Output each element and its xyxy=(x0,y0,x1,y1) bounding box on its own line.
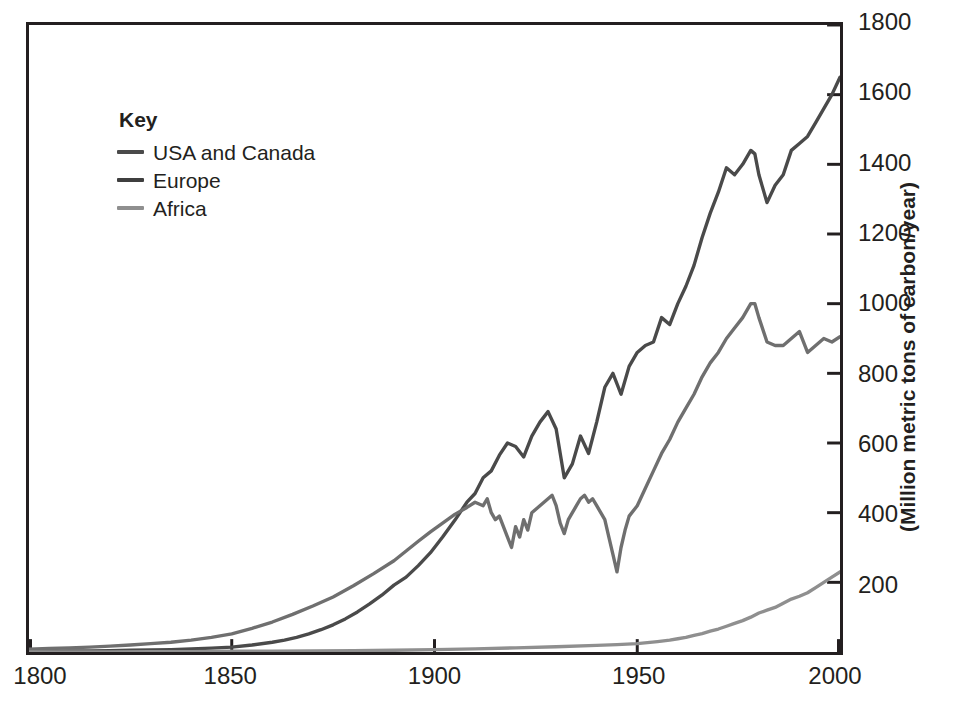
legend-swatch-usa-and-canada xyxy=(117,150,144,154)
x-tick-label: 2000 xyxy=(808,662,861,690)
legend-item-europe: Europe xyxy=(117,166,377,194)
y-axis-title: (Million metric tons of carbon/year) xyxy=(896,182,920,532)
legend-swatch-africa xyxy=(117,206,144,210)
y-tick-label: 1400 xyxy=(858,149,911,177)
y-tick-label: 400 xyxy=(858,500,898,528)
legend-label-europe: Europe xyxy=(153,170,221,191)
y-tick-label: 800 xyxy=(858,360,898,388)
legend-title: Key xyxy=(119,108,377,132)
x-tick-label: 1800 xyxy=(13,662,66,690)
chart-canvas: Key USA and Canada Europe Africa 2004006… xyxy=(0,0,956,714)
x-tick-label: 1950 xyxy=(612,662,665,690)
legend-item-usa-and-canada: USA and Canada xyxy=(117,138,377,166)
legend-label-usa-and-canada: USA and Canada xyxy=(153,142,315,163)
x-tick-label: 1900 xyxy=(408,662,461,690)
y-tick-label: 1800 xyxy=(858,8,911,36)
y-tick-label: 1600 xyxy=(858,78,911,106)
x-tick-label: 1850 xyxy=(204,662,257,690)
legend-item-africa: Africa xyxy=(117,194,377,222)
legend-label-africa: Africa xyxy=(153,198,207,219)
legend: Key USA and Canada Europe Africa xyxy=(117,108,377,222)
y-tick-label: 200 xyxy=(858,571,898,599)
y-tick-label: 600 xyxy=(858,430,898,458)
series-line-europe xyxy=(29,304,840,650)
legend-swatch-europe xyxy=(117,178,144,182)
